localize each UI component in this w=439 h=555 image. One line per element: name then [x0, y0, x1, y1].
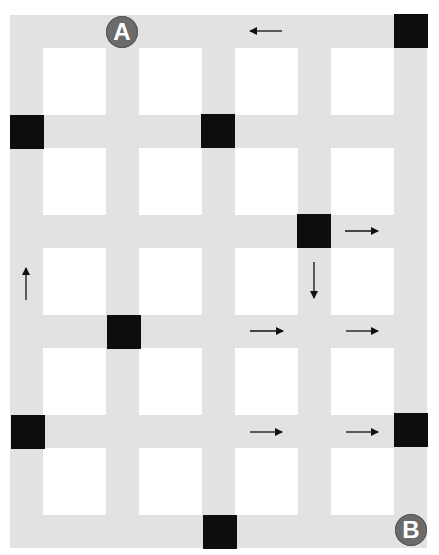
start-marker-a: A	[106, 16, 138, 48]
street-grid-map: AB	[0, 0, 439, 555]
end-marker-b: B	[395, 514, 427, 546]
one-way-arrows-layer	[0, 0, 439, 555]
